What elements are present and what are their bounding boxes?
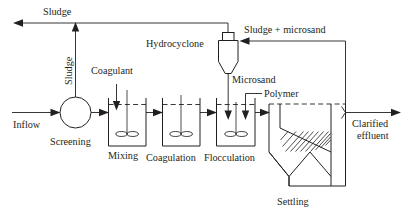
label-screening: Screening [50,136,91,147]
flow-diagram-canvas: Sludge Sludge Coagulant Hydrocyclone Slu… [0,0,410,219]
effluent-arrowhead [391,109,401,117]
mixing-impeller-right [127,132,139,137]
label-settling: Settling [277,196,309,207]
screening-mixing-arrowhead [99,109,109,117]
label-coagulation: Coagulation [146,152,196,163]
polymer-arrowhead [242,111,249,121]
flocculation-impeller-right [236,132,248,137]
coagulation-impeller-left [170,132,182,137]
label-mixing: Mixing [108,150,138,161]
stream-microsand-dose [225,74,232,121]
unit-screening [60,97,91,128]
effluent-weir-notch [342,107,346,119]
unit-coagulation [163,95,201,146]
coagulation-flocculation-arrowhead [207,109,217,117]
coagulant-arrowhead [113,101,120,111]
mixing-impeller-left [116,132,128,137]
stream-polymer-dose [242,94,262,121]
label-clarified-effluent-line1: Clarified [352,118,388,129]
label-sludge-microsand: Sludge + microsand [244,24,326,35]
label-polymer: Polymer [264,88,299,99]
unit-mixing [109,90,147,146]
process-flow-diagram: Sludge Sludge Coagulant Hydrocyclone Slu… [0,0,410,219]
label-hydrocyclone: Hydrocyclone [146,38,204,49]
label-microsand: Microsand [232,74,276,85]
recycle-arrowhead [240,37,250,45]
flocculation-impeller-left [225,132,237,137]
mixing-coagulation-arrowhead [153,109,163,117]
coagulation-impeller-right [181,132,193,137]
inflow-arrowhead [51,109,61,117]
label-inflow: Inflow [13,119,41,130]
label-sludge-vertical: Sludge [63,56,74,85]
stream-inflow [12,109,61,117]
hydrocyclone-top-box [223,33,235,41]
unit-hydrocyclone [219,33,239,74]
label-flocculation: Flocculation [204,152,255,163]
unit-flocculation [217,98,256,146]
unit-settling [269,104,346,186]
connector-mixing-to-coagulation [146,109,163,117]
stream-clarified-effluent [342,107,402,119]
stream-coagulant-dose [113,84,120,111]
microsand-arrowhead [225,111,232,121]
connector-flocculation-to-settling [255,109,270,117]
settling-hoppers [269,152,331,186]
label-coagulant: Coagulant [91,65,133,76]
connector-screening-to-mixing [91,109,109,117]
sludge-waste-arrowhead [13,19,23,27]
connector-coagulation-to-flocculation [200,109,217,117]
label-sludge-top: Sludge [43,6,72,17]
screening-circle [60,97,91,128]
stream-sludge-to-waste [13,19,228,27]
hydrocyclone-body [219,41,239,74]
label-clarified-effluent-line2: effluent [357,130,389,141]
